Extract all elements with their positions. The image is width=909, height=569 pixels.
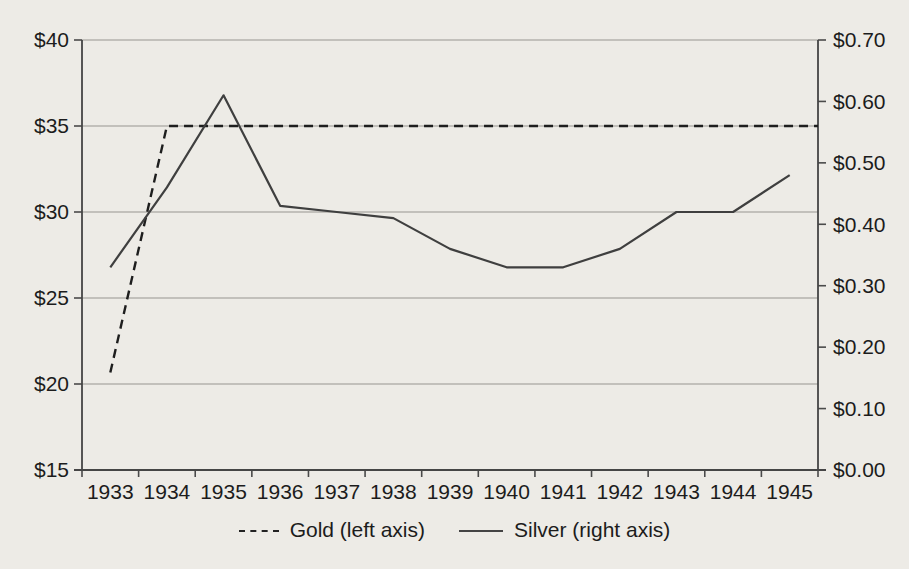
x-axis-tick-label: 1945 bbox=[766, 480, 813, 503]
left-axis-tick-label: $15 bbox=[34, 458, 69, 481]
right-axis-tick-label: $0.00 bbox=[833, 458, 886, 481]
left-axis-tick-label: $30 bbox=[34, 200, 69, 223]
legend: Gold (left axis) Silver (right axis) bbox=[0, 519, 909, 540]
left-axis-tick-label: $25 bbox=[34, 286, 69, 309]
x-axis-tick-label: 1944 bbox=[710, 480, 757, 503]
right-axis-tick-label: $0.10 bbox=[833, 397, 886, 420]
legend-item-gold: Gold (left axis) bbox=[239, 519, 425, 540]
x-axis-tick-label: 1942 bbox=[596, 480, 643, 503]
x-axis-tick-label: 1937 bbox=[313, 480, 360, 503]
gold-line bbox=[110, 126, 818, 372]
x-axis-tick-label: 1938 bbox=[370, 480, 417, 503]
x-axis-tick-label: 1935 bbox=[200, 480, 247, 503]
x-axis-tick-label: 1940 bbox=[483, 480, 530, 503]
x-axis-tick-label: 1934 bbox=[144, 480, 191, 503]
right-axis-tick-label: $0.40 bbox=[833, 213, 886, 236]
left-axis-tick-label: $20 bbox=[34, 372, 69, 395]
chart-canvas: $40$35$30$25$20$15$0.70$0.60$0.50$0.40$0… bbox=[0, 0, 909, 569]
legend-label-silver: Silver (right axis) bbox=[514, 519, 670, 540]
left-axis-tick-label: $40 bbox=[34, 28, 69, 51]
x-axis-tick-label: 1936 bbox=[257, 480, 304, 503]
right-axis-tick-label: $0.20 bbox=[833, 335, 886, 358]
right-axis-tick-label: $0.70 bbox=[833, 28, 886, 51]
left-axis-tick-label: $35 bbox=[34, 114, 69, 137]
right-axis-tick-label: $0.50 bbox=[833, 151, 886, 174]
x-axis-tick-label: 1943 bbox=[653, 480, 700, 503]
x-axis-tick-label: 1941 bbox=[540, 480, 587, 503]
legend-item-silver: Silver (right axis) bbox=[459, 519, 670, 540]
chart-page: $40$35$30$25$20$15$0.70$0.60$0.50$0.40$0… bbox=[0, 0, 909, 569]
x-axis-tick-label: 1939 bbox=[427, 480, 474, 503]
x-axis-tick-label: 1933 bbox=[87, 480, 134, 503]
legend-label-gold: Gold (left axis) bbox=[290, 519, 425, 540]
right-axis-tick-label: $0.60 bbox=[833, 90, 886, 113]
right-axis-tick-label: $0.30 bbox=[833, 274, 886, 297]
gold-dashed-line-sample bbox=[239, 530, 279, 532]
silver-line bbox=[110, 95, 789, 267]
silver-solid-line-sample bbox=[459, 530, 503, 532]
